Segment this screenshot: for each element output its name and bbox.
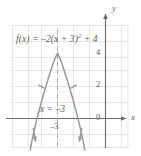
y-axis-label: y <box>112 4 116 13</box>
equation-suffix: + 4 <box>81 34 97 44</box>
x-axis-label: x <box>131 113 135 122</box>
parabola-figure: f(x) = –2(x + 3)2 + 4 y x 4 2 0 x = –3 –… <box>0 0 141 156</box>
origin-label-0: 0 <box>96 113 100 122</box>
equation-label: f(x) = –2(x + 3)2 + 4 <box>16 35 98 45</box>
x-tick-label-minus-3: –3 <box>50 122 59 131</box>
graph-canvas <box>0 0 141 156</box>
y-tick-label-4: 4 <box>96 48 100 57</box>
axis-of-symmetry-label: x = –3 <box>40 105 65 115</box>
y-tick-label-2: 2 <box>96 80 100 89</box>
equation-prefix: f(x) = –2(x + 3) <box>16 34 78 44</box>
